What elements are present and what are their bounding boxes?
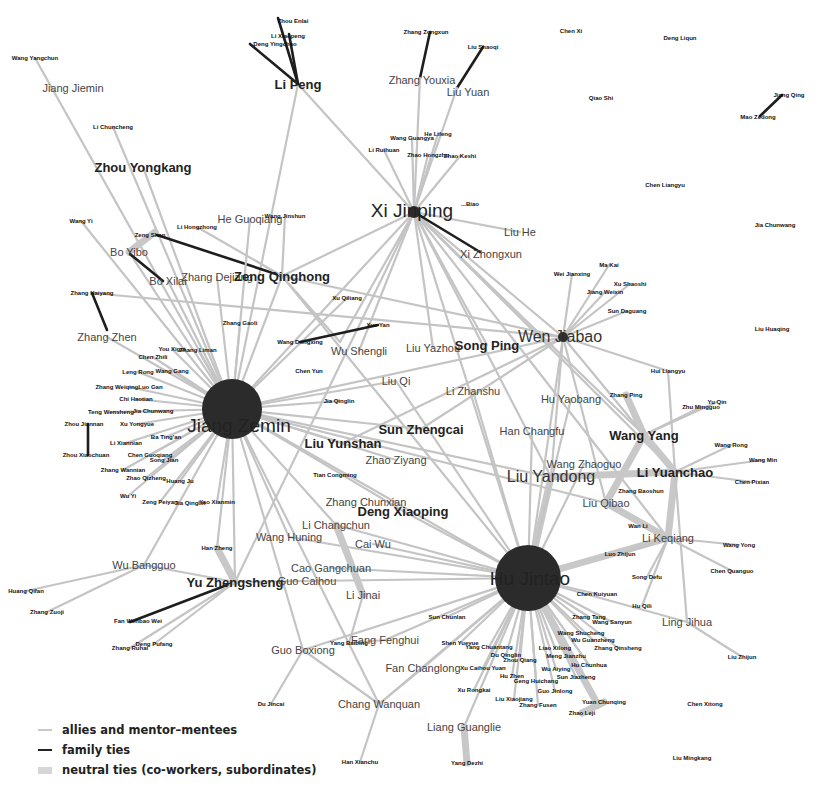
node-label-hui-liangyu: Hui Liangyu [651, 368, 685, 374]
node-label-chi-haotian: Chi Haotian [119, 396, 152, 402]
node-label-chen-pixian: Chen Pixian [735, 479, 769, 485]
node-label-liu-qi: Liu Qi [382, 376, 411, 387]
node-label-zhang-weiqing-luo-gan: Zhang WeiqingLuo Gan [95, 384, 162, 390]
node-label-zhao-ziyang: Zhao Ziyang [365, 455, 426, 466]
node-label-hu-jintao: Hu Jintao [490, 569, 570, 588]
network-diagram: Wang YangchunJiang JieminLi ChunchengZho… [0, 0, 820, 799]
node-label-li-xiannian: Li Xiannian [110, 440, 142, 446]
node-label-fang-fenghui: Fang Fenghui [351, 635, 419, 646]
node-label-xu-shaoshi: Xu Shaoshi [614, 281, 647, 287]
node-label-zhang-zongxun: Zhang Zongxun [404, 29, 449, 35]
node-label-zeng-qinghong: Zeng Qinghong [234, 270, 330, 283]
legend-item-neutral: neutral ties (co-workers, subordinates) [38, 760, 316, 780]
node-label-li-yuanchao: Li Yuanchao [637, 466, 713, 479]
node-label-wang-yi: Wang Yi [69, 218, 92, 224]
node-label-liang-guanglie: Liang Guanglie [427, 722, 501, 733]
node-label-wen-jiabao: Wen Jiabao [518, 329, 602, 345]
node-label-chen-liangyu: Chen Liangyu [645, 182, 685, 188]
legend-label-family: family ties [62, 743, 130, 757]
node-label-han-xianchu: Han Xianchu [342, 759, 378, 765]
neutral-edge [336, 525, 363, 595]
node-label-du-jincai: Du Jincai [258, 701, 285, 707]
family-edge [92, 293, 107, 330]
node-label-deng-liqun: Deng Liqun [664, 35, 697, 41]
node-label-zhao-qizheng: Zhao Qizheng [126, 475, 166, 481]
node-label-chen-quangus: Chen Quanguo [711, 568, 754, 574]
node-label-wang-jinshun: Wang Jinshun [265, 213, 306, 219]
node-label-leng-rong: Leng Rong [122, 369, 153, 375]
node-label-deng-pufang: Deng Pufang [136, 641, 173, 647]
node-label-li-yuanchao2: Xu Caihou Yuan [460, 665, 506, 671]
node-label-wu-yi: Wu Yi [120, 493, 136, 499]
node-label-xue-yan: Xue Yan [366, 322, 389, 328]
node-label-jiang-weixin: Jiang Weixin [587, 289, 624, 295]
node-label-chang-wanquan: Chang Wanquan [338, 699, 420, 710]
node-label-bo-yibo: Bo Yibo [110, 247, 148, 258]
node-label-li-chuncheng: Li Chuncheng [93, 124, 133, 130]
node-label-teng-wensheng: Teng Wensheng [88, 409, 134, 415]
node-label-zhang-qinsheng: Zhang Qinsheng [594, 645, 641, 651]
node-label-cao-gangchuan: Cao Gangchuan [291, 563, 371, 574]
family-edge [420, 32, 430, 78]
node-label-fan-wenbao-wei: Fan Wenbao Wei [114, 618, 162, 624]
node-label-wang-dongxing: Wang Dongxing [277, 339, 322, 345]
ally-edge [303, 650, 379, 704]
node-label-yu-qin: Yu Qin [707, 399, 726, 405]
node-label-zhang-fusen: Zhang Fusen [519, 702, 556, 708]
node-label-cai-wu: Cai Wu [355, 539, 391, 550]
node-label-wang-sanyun: Wang Sanyun [592, 619, 631, 625]
neutral-band-swatch-icon [38, 767, 52, 774]
family-edge [760, 95, 782, 116]
node-label-wu-bangguo: Wu Bangguo [112, 560, 175, 571]
node-label-deng-yingchao: Deng Yingchao [253, 41, 296, 47]
node-label-zeng-shan: Zeng Shan [135, 232, 166, 238]
node-label-wang-guangya: Wang Guangya [390, 135, 433, 141]
node-label-xu-qiliang: Xu Qiliang [332, 295, 362, 301]
node-label-zhou-xiaochuan: Zhou Xiaochuan [63, 452, 110, 458]
node-label-chen-zhili: Chen Zhili [139, 354, 168, 360]
ally-edge [271, 650, 303, 704]
node-label-chen-xitong: Chen Xitong [687, 701, 722, 707]
node-label-ling-jihua: Ling Jihua [662, 617, 712, 628]
node-label-liu-shaoqi: Liu Shaoqi [468, 44, 499, 50]
node-label-yang-dezhi: Yang Dezhi [451, 760, 483, 766]
node-label-wu-guancheng: Wu Guanzheng [571, 637, 615, 643]
node-label-zhou-qiang: Zhou Qiang [503, 657, 536, 663]
node-label-geng-huichang: Geng Huichang [514, 678, 558, 684]
node-label-sun-chunlan: Sun Chunlan [429, 614, 466, 620]
node-label-zhang-ping: Zhang Ping [610, 392, 643, 398]
node-label-zeng-peiyan: Zeng Peiyan [142, 499, 177, 505]
node-label-hu-chunhua: Hu Chunhua [571, 662, 607, 668]
node-label-liu-mingkang: Liu Mingkang [673, 755, 712, 761]
node-label-xi-zhongxun: Xi Zhongxun [460, 249, 522, 260]
neutral-edge [668, 472, 675, 538]
node-label-wang-gang: Wang Gang [155, 368, 188, 374]
node-label-hu-yaobang: Hu Yaobang [541, 394, 601, 405]
node-label-liu-qibao: Liu Qibao [582, 498, 629, 509]
node-label-song-jian: Song Jian [150, 457, 179, 463]
node-label-guo-jinlong: Guo Jinlong [538, 688, 573, 694]
node-label-tian-congming: Tian Congming [313, 472, 357, 478]
node-label-wang-min: Wang Min [749, 457, 777, 463]
ally-edge [282, 216, 285, 276]
node-label-zhang-gaoli: Zhang Gaoli [223, 320, 258, 326]
node-label-yang-chuantang: Yang Chuantang [465, 644, 512, 650]
node-label-wang-yang: Wang Yang [609, 429, 678, 442]
node-label-song-ping: Song Ping [455, 339, 519, 352]
node-label-jiang-qing: Jiang Qing [773, 92, 804, 98]
legend-item-allies: allies and mentor–mentees [38, 720, 316, 740]
node-label-zhao-keshi: Zhao Keshi [444, 153, 476, 159]
family-edge [457, 47, 483, 88]
node-label-wei-jianxing: Wei Jianxing [554, 271, 591, 277]
node-label-li-jinai: Li Jinai [346, 590, 380, 601]
node-label-sun-zhengcai: Sun Zhengcai [378, 423, 463, 436]
ally-edge [282, 212, 414, 276]
node-label-han-zheng: Han Zheng [202, 545, 233, 551]
node-label-ba-tingan: Ba Ting'an [151, 434, 181, 440]
node-label-chu-an: Jia Chunwang [133, 408, 174, 414]
node-label-li-keqiang: Li Keqiang [642, 533, 694, 544]
node-label-jia-qinglin: Jia Qinglin [324, 398, 355, 404]
node-label-li-hongzhong: Li Hongzhong [177, 224, 217, 230]
legend: allies and mentor–mentees family ties ne… [38, 720, 316, 780]
node-label-zhang-youxia: Zhang Youxia [389, 75, 456, 86]
